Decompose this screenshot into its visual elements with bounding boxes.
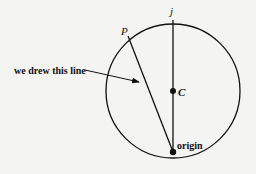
center-point (170, 88, 176, 94)
circle-diagram: j P C origin we drew this line (0, 0, 256, 174)
label-j: j (168, 5, 173, 17)
label-origin: origin (177, 140, 203, 151)
drawn-chord-line (128, 36, 173, 152)
label-c: C (178, 86, 186, 98)
label-p: P (120, 25, 128, 37)
annotation-text: we drew this line (14, 65, 86, 76)
annotation-arrow (85, 70, 139, 82)
origin-point (170, 149, 176, 155)
